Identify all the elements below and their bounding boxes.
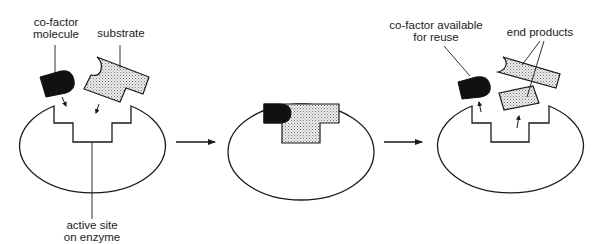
substrate-molecule <box>84 57 149 102</box>
stage-1-enzyme <box>19 106 165 219</box>
stage-1-substrate <box>84 45 149 113</box>
end-products-leader-1 <box>522 41 540 65</box>
cofactor-molecule <box>40 71 74 97</box>
end-product-2 <box>499 86 539 110</box>
enzyme-body-free <box>437 106 583 193</box>
cofactor-reuse-label-line-2: for reuse <box>389 31 482 43</box>
end-products-label-text: end products <box>507 26 574 38</box>
bound-cofactor <box>264 104 291 123</box>
stage-2-complex <box>228 104 374 200</box>
released-cofactor-arrow <box>479 102 481 112</box>
released-cofactor <box>458 77 490 99</box>
cofactor-reuse-label-line-1: co-factor available <box>389 19 482 31</box>
active-site-label: active site on enzyme <box>64 219 120 243</box>
cofactor-label: co-factor molecule <box>33 16 79 40</box>
cofactor-arrow <box>62 97 66 106</box>
active-site-label-line-2: on enzyme <box>64 231 120 243</box>
stage-3-cofactor <box>444 46 490 112</box>
enzyme-body <box>19 106 165 193</box>
substrate-label: substrate <box>97 27 144 39</box>
end-product-1 <box>498 57 560 88</box>
released-cofactor-leader-line <box>444 46 470 76</box>
stage-3-enzyme <box>437 106 583 193</box>
cofactor-label-line-1: co-factor <box>33 16 79 28</box>
substrate-arrow <box>96 104 99 113</box>
substrate-label-text: substrate <box>97 27 144 39</box>
active-site-label-line-1: active site <box>64 219 120 231</box>
end-product-arrow <box>517 116 519 128</box>
stage-1-cofactor <box>40 45 74 106</box>
cofactor-label-line-2: molecule <box>33 28 79 40</box>
end-products-label: end products <box>507 26 574 38</box>
cofactor-reuse-label: co-factor available for reuse <box>389 19 482 43</box>
